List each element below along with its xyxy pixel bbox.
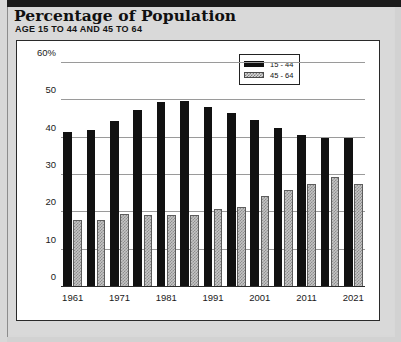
bar-15-44	[204, 107, 213, 287]
bar-group	[321, 63, 340, 287]
page-title: Percentage of Population	[14, 6, 236, 25]
bar-group	[204, 63, 223, 287]
bar-45-64	[73, 220, 82, 287]
bar-group	[63, 63, 82, 287]
bar-45-64	[144, 215, 153, 287]
x-axis-tick-label: 1981	[156, 292, 177, 303]
plot-area: 0102030405060% 1961197119811991200120112…	[61, 63, 365, 287]
y-axis-tick-label: 10	[45, 233, 56, 244]
bar-15-44	[133, 110, 142, 287]
chart-panel: 15 - 44 45 - 64 0102030405060% 196119711…	[16, 40, 380, 321]
bar-15-44	[227, 113, 236, 287]
bar-45-64	[167, 215, 176, 287]
bar-15-44	[274, 128, 283, 287]
bar-group	[250, 63, 269, 287]
bar-45-64	[237, 207, 246, 287]
x-axis-tick-label: 1961	[62, 292, 83, 303]
bar-15-44	[157, 102, 166, 287]
bar-45-64	[307, 184, 316, 287]
bar-group	[227, 63, 246, 287]
bar-group	[110, 63, 129, 287]
x-axis-tick-label: 2021	[343, 292, 364, 303]
x-axis-tick-label: 1971	[109, 292, 130, 303]
bar-45-64	[261, 196, 270, 287]
y-axis-tick-label: 40	[45, 121, 56, 132]
x-axis-line	[61, 286, 365, 288]
bar-group	[180, 63, 199, 287]
x-axis-tick-label: 1991	[202, 292, 223, 303]
bar-45-64	[120, 214, 129, 287]
bar-15-44	[63, 132, 72, 287]
bar-45-64	[284, 190, 293, 287]
y-axis-tick-label: 50	[45, 84, 56, 95]
y-axis-tick-label: 20	[45, 196, 56, 207]
bar-group	[274, 63, 293, 287]
bar-45-64	[354, 184, 363, 287]
x-axis-tick-label: 2011	[296, 292, 316, 303]
bar-15-44	[110, 121, 119, 287]
bar-group	[297, 63, 316, 287]
chart-page: Percentage of Population AGE 15 TO 44 AN…	[0, 0, 401, 342]
bar-45-64	[331, 177, 340, 287]
bar-45-64	[190, 215, 199, 287]
page-left-margin	[0, 0, 7, 342]
bar-group	[87, 63, 106, 287]
y-axis-tick-label: 60%	[37, 47, 56, 58]
bar-15-44	[297, 135, 306, 287]
bar-group	[133, 63, 152, 287]
y-axis-tick-label: 30	[45, 159, 56, 170]
page-subtitle: AGE 15 TO 44 AND 45 TO 64	[15, 24, 142, 34]
bar-15-44	[321, 138, 330, 287]
y-axis-tick-label: 0	[51, 271, 56, 282]
bar-15-44	[250, 120, 259, 287]
bar-series-container	[61, 63, 365, 287]
bar-45-64	[97, 220, 106, 287]
bar-group	[344, 63, 363, 287]
bar-45-64	[214, 209, 223, 287]
bar-15-44	[180, 101, 189, 287]
bar-15-44	[87, 130, 96, 287]
bar-15-44	[344, 138, 353, 287]
x-axis-tick-label: 2001	[249, 292, 270, 303]
bar-group	[157, 63, 176, 287]
